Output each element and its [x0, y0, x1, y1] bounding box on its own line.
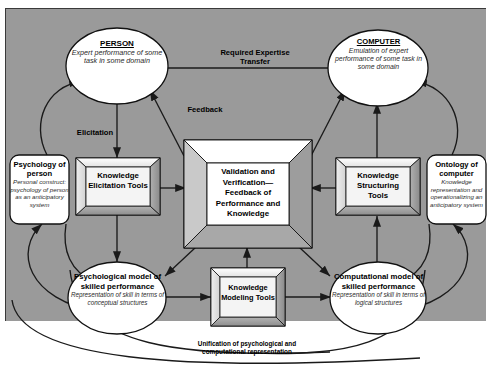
edge-ontology-to-computer [416, 82, 458, 155]
node-person[interactable] [66, 28, 168, 104]
edge-validation-to-comp-model [299, 247, 330, 276]
node-validation-and-verification[interactable] [184, 140, 312, 248]
edge-psychology-to-person [40, 82, 80, 155]
edge-validation-to-person [150, 90, 184, 156]
diagram-vector-layer [0, 0, 495, 390]
edge-validation-to-computer [311, 90, 345, 156]
node-knowledge-elicitation-tools[interactable] [76, 158, 160, 215]
node-knowledge-structuring-tools[interactable] [336, 158, 420, 215]
node-psychological-model[interactable] [68, 262, 166, 334]
node-computer[interactable] [328, 30, 428, 106]
node-ontology-of-computer[interactable] [427, 155, 486, 224]
node-psychology-of-person[interactable] [10, 155, 69, 224]
node-knowledge-modeling-tools[interactable] [211, 268, 285, 326]
node-computational-model[interactable] [330, 262, 426, 334]
edge-validation-to-psych-model [165, 247, 196, 276]
diagram-canvas: PERSON Expert performance of some task i… [0, 0, 495, 390]
